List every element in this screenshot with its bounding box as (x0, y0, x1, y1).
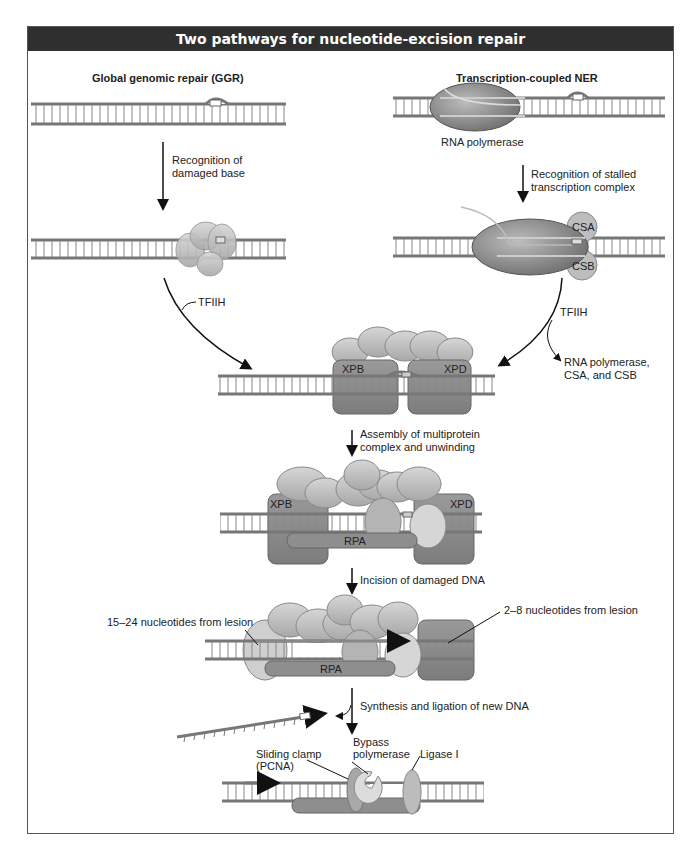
sliding-clamp-line1: Sliding clamp (256, 748, 321, 760)
left-incision-note: 15–24 nucleotides from lesion (107, 616, 253, 628)
xpd-label-2: XPD (450, 498, 473, 510)
xpd-label: XPD (444, 363, 467, 375)
synthesis-label: Synthesis and ligation of new DNA (360, 700, 529, 712)
sliding-clamp-line2: (PCNA) (256, 760, 294, 772)
rna-polymerase-icon (430, 83, 520, 131)
incision-label: Incision of damaged DNA (360, 574, 485, 586)
xpb-label-2: XPB (270, 498, 292, 510)
ner-diagram: Global genomic repair (GGR) Transcriptio… (0, 0, 696, 848)
ligase-icon (403, 770, 421, 814)
dna-tcner-polymerase (393, 83, 665, 131)
assembly-line2: complex and unwinding (360, 441, 475, 453)
released-line2: CSA, and CSB (564, 369, 637, 381)
rpa-label-2: RPA (320, 663, 342, 675)
tcner-step1-line1: Recognition of stalled (531, 168, 636, 180)
dna-ggr-damaged (31, 99, 286, 124)
rna-polymerase-label: RNA polymerase (441, 136, 524, 148)
lesion-icon (210, 100, 221, 106)
ligase-label: Ligase I (420, 748, 459, 760)
dna-ggr-recognition (31, 222, 286, 276)
dna-tcner-stalled (393, 207, 665, 280)
ggr-step1-line1: Recognition of (172, 154, 243, 166)
assembly-line1: Assembly of multiprotein (360, 428, 480, 440)
assembly-complex (220, 460, 482, 564)
tcner-tfiih-label: TFIIH (560, 306, 588, 318)
released-line1: RNA polymerase, (564, 356, 650, 368)
ggr-tfiih-label: TFIIH (198, 296, 226, 308)
excised-oligonucleotide (177, 712, 322, 742)
csb-label: CSB (572, 260, 595, 272)
ggr-step1-line2: damaged base (172, 167, 245, 179)
csa-label: CSA (572, 221, 595, 233)
bypass-polymerase-icon (354, 771, 382, 803)
lesion-icon (573, 94, 583, 100)
synthesis-complex (222, 768, 484, 814)
bypass-polymerase-line1: Bypass (353, 736, 390, 748)
tcner-title: Transcription-coupled NER (456, 72, 598, 84)
xpb-label: XPB (342, 363, 364, 375)
right-incision-note: 2–8 nucleotides from lesion (504, 604, 638, 616)
bypass-polymerase-line2: polymerase (353, 748, 410, 760)
ggr-title: Global genomic repair (GGR) (92, 72, 244, 84)
rpa-label: RPA (344, 535, 366, 547)
tcner-step1-line2: transcription complex (531, 181, 635, 193)
